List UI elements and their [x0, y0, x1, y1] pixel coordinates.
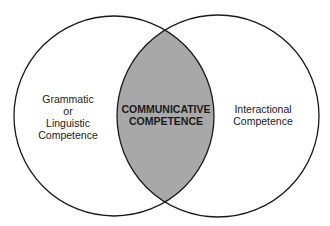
- left-label-line-4: Competence: [38, 129, 98, 141]
- left-circle-label: Grammatic or Linguistic Competence: [38, 93, 98, 141]
- intersection-label-line-1: COMMUNICATIVE: [121, 103, 210, 115]
- right-label-line-1: Interactional: [234, 103, 291, 115]
- intersection-label-line-2: COMPETENCE: [129, 115, 203, 127]
- left-label-line-1: Grammatic: [42, 93, 93, 105]
- right-label-line-2: Competence: [233, 115, 293, 127]
- left-label-line-2: or: [63, 105, 73, 117]
- intersection-label: COMMUNICATIVE COMPETENCE: [121, 103, 210, 127]
- left-label-line-3: Linguistic: [46, 117, 90, 129]
- right-circle-label: Interactional Competence: [233, 103, 293, 127]
- venn-diagram: Grammatic or Linguistic Competence COMMU…: [0, 0, 330, 226]
